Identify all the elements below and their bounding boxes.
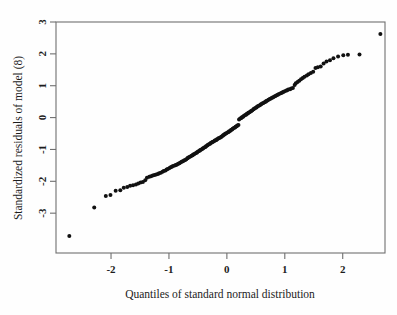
- data-point: [331, 56, 335, 60]
- x-axis-ticks: [111, 253, 343, 259]
- y-axis-label: Standardized residuals of model (8): [12, 56, 25, 220]
- data-point: [319, 65, 323, 69]
- data-point: [328, 58, 332, 62]
- data-point: [236, 123, 240, 127]
- y-tick-label: 3: [36, 19, 48, 25]
- y-tick-label: 1: [36, 83, 48, 89]
- x-axis-label: Quantiles of standard normal distributio…: [125, 288, 315, 300]
- data-point: [122, 186, 126, 190]
- data-point: [118, 188, 122, 192]
- data-point: [346, 53, 350, 57]
- data-point: [67, 234, 71, 238]
- y-tick-label: 0: [36, 114, 48, 120]
- data-point: [104, 194, 108, 198]
- data-point: [114, 189, 118, 193]
- y-axis-ticks: [50, 22, 56, 213]
- data-point: [341, 53, 345, 57]
- x-tick-label: -1: [164, 263, 173, 275]
- y-tick-label: -3: [36, 208, 48, 218]
- scatter-points: [67, 32, 382, 238]
- data-point: [378, 32, 382, 36]
- y-tick-label: -2: [36, 176, 48, 186]
- data-point: [358, 53, 362, 57]
- x-tick-label: -2: [106, 263, 116, 275]
- data-point: [325, 60, 329, 64]
- data-point: [336, 54, 340, 58]
- y-axis-tick-labels: 3210-1-2-3: [36, 19, 48, 218]
- qq-plot-figure: -2-1012 3210-1-2-3 Quantiles of standard…: [0, 0, 397, 315]
- data-point: [311, 70, 315, 74]
- y-tick-label: 2: [36, 51, 48, 57]
- x-tick-label: 2: [340, 263, 346, 275]
- x-tick-label: 0: [224, 263, 230, 275]
- data-point: [108, 193, 112, 197]
- x-axis-tick-labels: -2-1012: [106, 263, 346, 275]
- plot-canvas: -2-1012 3210-1-2-3 Quantiles of standard…: [0, 0, 397, 315]
- x-tick-label: 1: [282, 263, 288, 275]
- y-tick-label: -1: [36, 145, 48, 154]
- data-point: [92, 205, 96, 209]
